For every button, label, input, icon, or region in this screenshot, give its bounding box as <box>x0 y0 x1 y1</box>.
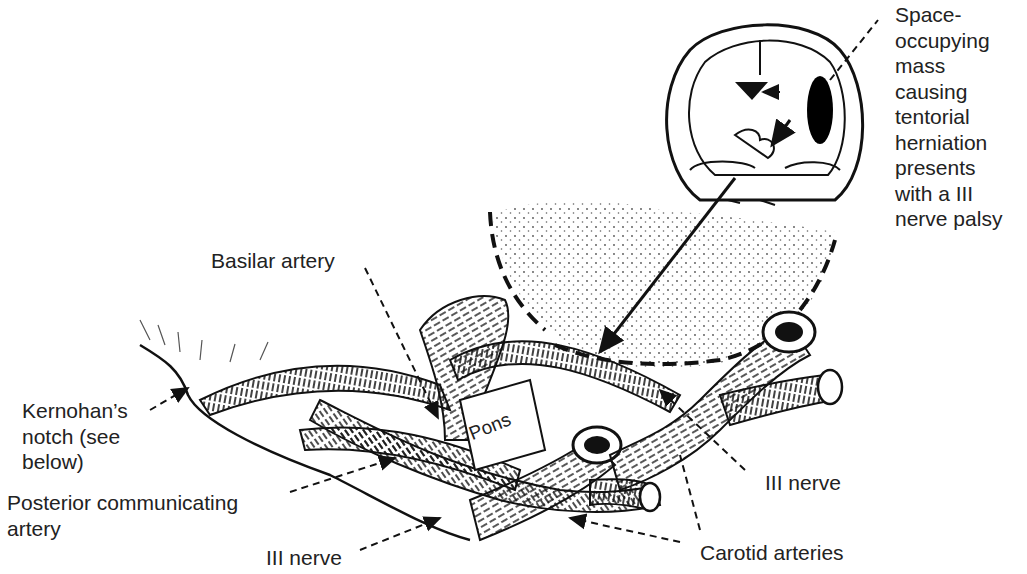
space-occupying-mass <box>807 76 833 144</box>
anatomy-illustration <box>0 0 1027 574</box>
label-mass-callout: Space- occupying mass causing tentorial … <box>895 2 1002 232</box>
label-kernohans-notch: Kernohan’s notch (see below) <box>22 398 128 475</box>
label-iii-nerve-left: III nerve <box>266 545 342 571</box>
label-posterior-communicating-artery: Posterior communicating artery <box>7 490 238 541</box>
label-carotid-arteries: Carotid arteries <box>700 540 844 566</box>
label-iii-nerve-right: III nerve <box>765 470 841 496</box>
brain-section-inset <box>667 20 878 205</box>
label-basilar-artery: Basilar artery <box>211 248 335 274</box>
